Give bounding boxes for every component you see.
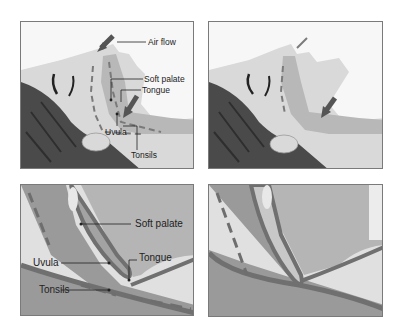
label-tongue: Tongue: [139, 253, 172, 263]
label-uvula: Uvula: [33, 258, 59, 268]
airway-closeup-obstructed: [209, 185, 383, 317]
label-uvula: Uvula: [105, 128, 127, 137]
label-soft-palate: Soft palate: [144, 75, 185, 84]
panel-obstructed-airway-closeup: [208, 184, 383, 317]
label-tonsils: Tonsils: [39, 285, 70, 295]
panel-open-airway-head: Air flow Soft palate Tongue Uvula Tonsil…: [20, 21, 194, 169]
label-tonsils: Tonsils: [131, 151, 157, 160]
head-illustration-obstructed: [209, 22, 383, 169]
panel-obstructed-airway-head: [208, 21, 383, 169]
panel-open-airway-closeup: Soft palate Tongue Uvula Tonsils: [20, 184, 194, 316]
label-soft-palate: Soft palate: [135, 219, 183, 229]
airway-closeup-open: [21, 185, 194, 316]
label-tongue: Tongue: [142, 86, 170, 95]
label-air-flow: Air flow: [148, 38, 176, 47]
